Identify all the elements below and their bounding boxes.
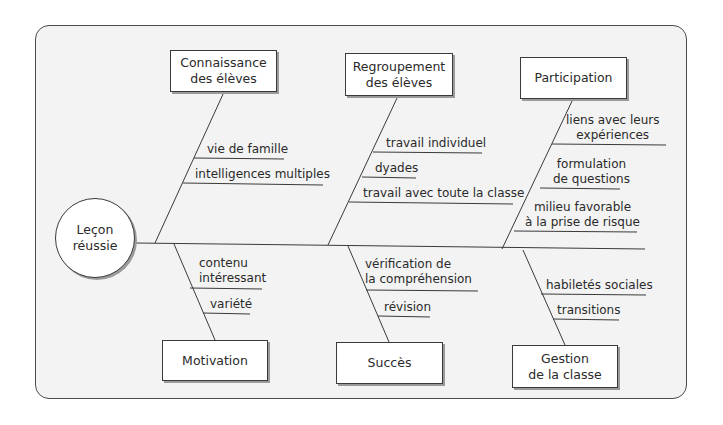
cause-label: vérification de la compréhension <box>365 257 472 287</box>
effect-head-circle: Leçon réussie <box>55 198 135 278</box>
cause-line-travail-individuel <box>373 152 482 153</box>
category-box-succes: Succès <box>336 342 443 384</box>
cause-label: révision <box>384 300 431 315</box>
cause-line-variete <box>203 313 250 314</box>
cause-line-revision <box>378 316 430 317</box>
category-box-regroupement: Regroupement des élèves <box>345 53 453 96</box>
cause-label: milieu favorable à la prise de risque <box>525 200 640 230</box>
cause-label: contenu intéressant <box>199 256 266 286</box>
cause-label: liens avec leurs expériences <box>566 113 659 143</box>
cause-label: formulation de questions <box>553 157 630 187</box>
cause-label: habiletés sociales <box>546 278 653 293</box>
cause-line-habiletes <box>541 294 646 295</box>
category-box-gestion: Gestion de la classe <box>512 345 618 388</box>
cause-label: travail individuel <box>386 136 486 151</box>
cause-label: dyades <box>375 161 418 176</box>
category-box-participation: Participation <box>520 57 627 99</box>
cause-line-vie-de-famille <box>194 158 284 159</box>
cause-label: variété <box>210 297 252 312</box>
cause-label: transitions <box>557 303 620 318</box>
cause-line-dyades <box>362 177 416 178</box>
cause-label: travail avec toute la classe <box>363 186 524 201</box>
cause-line-milieu <box>514 231 637 232</box>
cause-line-formulation <box>540 188 620 189</box>
cause-label: intelligences multiples <box>195 167 330 182</box>
cause-line-intelligences <box>183 183 323 185</box>
cause-label: vie de famille <box>207 142 288 157</box>
cause-line-transitions <box>553 319 619 320</box>
category-box-motivation: Motivation <box>162 340 268 381</box>
cause-line-liens <box>552 144 666 145</box>
category-box-connaissance: Connaissance des élèves <box>170 50 277 92</box>
bone-gestion <box>523 250 565 345</box>
fishbone-diagram: Leçon réussie Connaissance des élèves Re… <box>0 0 723 425</box>
cause-line-contenu <box>190 288 262 289</box>
spine-line <box>135 243 645 249</box>
cause-line-verification <box>366 290 478 291</box>
cause-line-toute-la-classe <box>349 202 513 204</box>
